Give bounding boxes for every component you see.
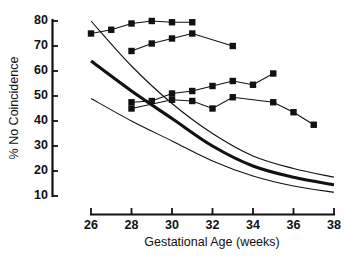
- data-point-marker: [169, 19, 175, 25]
- data-point-marker: [209, 83, 215, 89]
- chart-figure: 80 70 60 50 40 30 20 10 % No Coincidence…: [0, 0, 358, 265]
- y-tick-label-70: 70: [34, 38, 48, 52]
- x-tick-label-30: 30: [165, 218, 179, 232]
- data-point-marker: [270, 99, 276, 105]
- x-axis-title: Gestational Age (weeks): [144, 235, 280, 249]
- data-point-marker: [128, 99, 134, 105]
- data-point-marker: [311, 122, 317, 128]
- y-tick-label-30: 30: [34, 138, 48, 152]
- x-tick-label-36: 36: [287, 218, 301, 232]
- marker-series-group: [88, 18, 317, 128]
- data-point-marker: [128, 20, 134, 26]
- data-point-marker: [169, 97, 175, 103]
- data-point-marker: [128, 48, 134, 54]
- data-point-marker: [128, 105, 134, 111]
- data-point-marker: [88, 30, 94, 36]
- x-tick-label-34: 34: [246, 218, 260, 232]
- fitted-curve: [91, 61, 334, 185]
- y-tick-label-60: 60: [34, 63, 48, 77]
- x-tick-label-26: 26: [84, 218, 98, 232]
- y-axis-title: % No Coincidence: [7, 57, 21, 160]
- data-point-marker: [189, 98, 195, 104]
- data-point-marker: [108, 27, 114, 33]
- x-tick-label-28: 28: [125, 218, 139, 232]
- x-tick-label-32: 32: [206, 218, 220, 232]
- y-tick-label-40: 40: [34, 113, 48, 127]
- upper-confidence-curve: [91, 21, 334, 177]
- marker-series-2: [128, 30, 236, 54]
- data-point-marker: [169, 90, 175, 96]
- data-point-marker: [230, 94, 236, 100]
- data-point-marker: [209, 105, 215, 111]
- marker-series-1: [88, 18, 196, 37]
- marker-series-1-line: [91, 21, 192, 34]
- data-point-marker: [230, 43, 236, 49]
- data-point-marker: [189, 30, 195, 36]
- data-point-marker: [149, 40, 155, 46]
- y-tick-label-10: 10: [34, 188, 48, 202]
- y-tick-label-80: 80: [34, 13, 48, 27]
- data-point-marker: [270, 70, 276, 76]
- data-point-marker: [290, 109, 296, 115]
- chart-plot-area: 80 70 60 50 40 30 20 10 % No Coincidence…: [0, 0, 358, 265]
- y-tick-label-50: 50: [34, 88, 48, 102]
- data-point-marker: [230, 78, 236, 84]
- y-tick-label-20: 20: [34, 163, 48, 177]
- data-point-marker: [189, 19, 195, 25]
- data-point-marker: [149, 18, 155, 24]
- data-point-marker: [250, 82, 256, 88]
- x-tick-label-38: 38: [327, 218, 341, 232]
- data-point-marker: [189, 88, 195, 94]
- data-point-marker: [169, 35, 175, 41]
- marker-series-2-line: [132, 34, 233, 52]
